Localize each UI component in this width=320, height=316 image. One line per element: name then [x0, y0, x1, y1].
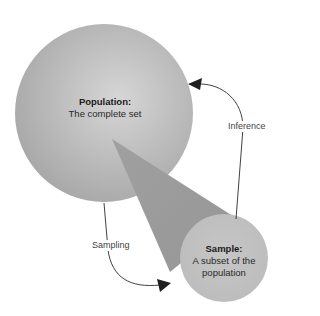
sample-subtitle-line1: A subset of the [180, 255, 268, 267]
sampling-arrowhead-icon [157, 279, 171, 292]
sampling-label: Sampling [91, 240, 131, 251]
population-title: Population: [60, 96, 150, 108]
population-label: Population: The complete set [60, 96, 150, 120]
sample-title: Sample: [180, 243, 268, 255]
sample-label: Sample: A subset of the population [180, 243, 268, 279]
sample-subtitle-line2: population [180, 267, 268, 279]
inference-arrowhead-icon [188, 78, 202, 90]
population-subtitle: The complete set [69, 108, 142, 119]
inference-arrow [200, 84, 243, 219]
inference-label: Inference [227, 121, 267, 132]
